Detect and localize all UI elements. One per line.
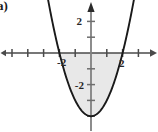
x-tick-label-2: 2 xyxy=(119,57,125,69)
x-axis-arrow-left-icon xyxy=(1,50,7,56)
y-tick-label-minus-2: -2 xyxy=(75,79,85,91)
parabola-plot: -2 2 2 -2 xyxy=(0,0,158,132)
y-tick-label-2: 2 xyxy=(77,15,83,27)
figure-container: a) -2 2 2 -2 xyxy=(0,0,158,132)
y-axis-arrow-up-icon xyxy=(87,2,94,12)
x-axis-arrow-right-icon xyxy=(150,49,157,57)
x-tick-label-minus-2: -2 xyxy=(57,56,67,68)
